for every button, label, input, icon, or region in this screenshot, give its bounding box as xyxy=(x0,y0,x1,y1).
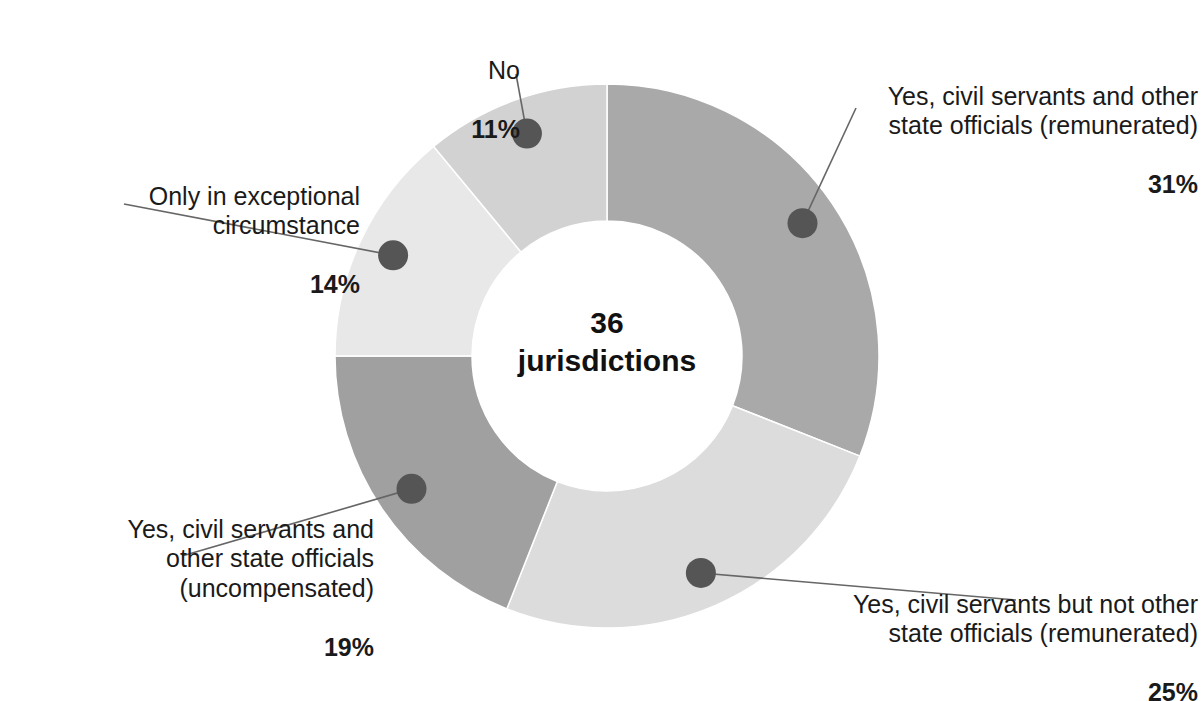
callout-yes-remunerated-all: Yes, civil servants and other state offi… xyxy=(838,52,1198,229)
callout-yes-remunerated-all-text: Yes, civil servants and other state offi… xyxy=(838,82,1198,141)
callout-yes-remunerated-all-percent: 31% xyxy=(838,170,1198,200)
callout-yes-remunerated-civil-only-text: Yes, civil servants but not other state … xyxy=(778,590,1198,649)
callout-only-exceptional: Only in exceptional circumstance 14% xyxy=(60,152,360,329)
callout-only-exceptional-text: Only in exceptional circumstance xyxy=(60,182,360,241)
callout-no-text: No xyxy=(300,56,520,86)
slice-marker-dot[interactable] xyxy=(378,240,408,270)
callout-yes-uncompensated-text: Yes, civil servants and other state offi… xyxy=(44,515,374,604)
callout-yes-uncompensated: Yes, civil servants and other state offi… xyxy=(44,485,374,692)
center-total-unit: jurisdictions xyxy=(517,344,696,377)
center-total-number: 36 xyxy=(590,306,623,339)
slice-marker-dot[interactable] xyxy=(396,474,426,504)
chart-canvas: 36 jurisdictions No 11% Yes, civil serva… xyxy=(0,0,1203,701)
slice-marker-dot[interactable] xyxy=(686,558,716,588)
callout-no-percent: 11% xyxy=(300,115,520,145)
callout-yes-remunerated-civil-only-percent: 25% xyxy=(778,678,1198,701)
callout-yes-uncompensated-percent: 19% xyxy=(44,633,374,663)
callout-yes-remunerated-civil-only: Yes, civil servants but not other state … xyxy=(778,560,1198,701)
callout-only-exceptional-percent: 14% xyxy=(60,270,360,300)
slice-marker-dot[interactable] xyxy=(788,208,818,238)
